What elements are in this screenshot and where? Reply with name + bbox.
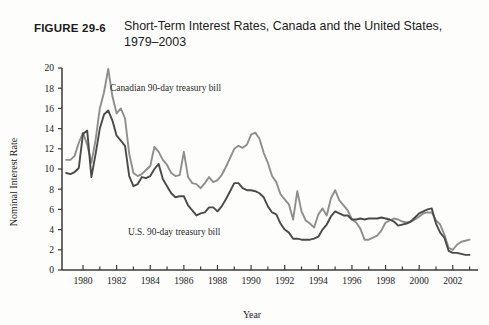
y-tick-label: 8 <box>49 184 54 195</box>
y-tick-label: 12 <box>44 143 54 154</box>
y-tick-label: 16 <box>44 103 54 114</box>
y-tick-label: 14 <box>44 123 54 134</box>
x-axis: 1980198219841986198819901992199419961998… <box>62 265 478 286</box>
figure-container: FIGURE 29-6 Short-Term Interest Rates, C… <box>0 0 489 325</box>
y-tick-label: 4 <box>49 224 54 235</box>
y-tick-label: 2 <box>49 244 54 255</box>
us-series-annotation: U.S. 90-day treasury bill <box>128 227 221 237</box>
x-tick-label: 1990 <box>241 275 260 286</box>
canada-series-annotation: Canadian 90-day treasury bill <box>110 83 222 93</box>
x-tick-label: 1988 <box>208 275 227 286</box>
x-tick-label: 2000 <box>410 275 429 286</box>
x-tick-label: 1996 <box>342 275 361 286</box>
figure-header: FIGURE 29-6 Short-Term Interest Rates, C… <box>0 0 489 52</box>
x-tick-label: 1998 <box>376 275 395 286</box>
x-tick-label: 2002 <box>443 275 462 286</box>
chart-plot-area: 02468101214161820 1980198219841986198819… <box>0 52 489 325</box>
figure-number-label: FIGURE 29-6 <box>34 22 106 34</box>
y-tick-label: 6 <box>49 204 54 215</box>
y-axis: 02468101214161820 <box>44 62 62 275</box>
series-lines <box>66 69 469 255</box>
y-tick-label: 0 <box>49 264 54 275</box>
x-tick-label: 1982 <box>107 275 126 286</box>
y-tick-label: 18 <box>44 83 54 94</box>
x-axis-title: Year <box>243 309 262 320</box>
x-tick-label: 1994 <box>309 275 328 286</box>
x-tick-label: 1984 <box>141 275 160 286</box>
x-tick-label: 1980 <box>73 275 92 286</box>
line-chart-svg: 02468101214161820 1980198219841986198819… <box>0 52 489 325</box>
x-tick-label: 1986 <box>174 275 193 286</box>
x-tick-label: 1992 <box>275 275 294 286</box>
y-tick-label: 20 <box>44 62 54 73</box>
figure-caption: Short-Term Interest Rates, Canada and th… <box>124 19 472 50</box>
y-axis-title: Nominal Interest Rate <box>8 137 19 226</box>
y-tick-label: 10 <box>44 163 54 174</box>
